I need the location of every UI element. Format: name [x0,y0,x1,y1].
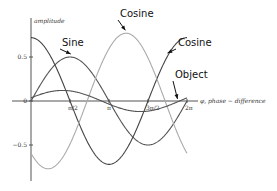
x-axis-label: φ, phase − difference [200,97,266,105]
y-tick-label: −0.5 [12,141,27,148]
annotation-label: Cosine [178,37,212,48]
annotation-label: Object [175,69,208,80]
y-tick-label: 0.5 [17,53,27,60]
phase-chart: amplitude φ, phase − difference π/2π3π/2… [0,0,277,191]
annotation-label: Sine [62,37,84,48]
y-axis-label: amplitude [34,17,65,25]
annotation-label: Cosine [120,8,154,19]
y-tick-label: 0 [23,97,27,104]
arrowhead-icon [121,25,125,30]
x-tick-label: 2π [185,104,193,111]
